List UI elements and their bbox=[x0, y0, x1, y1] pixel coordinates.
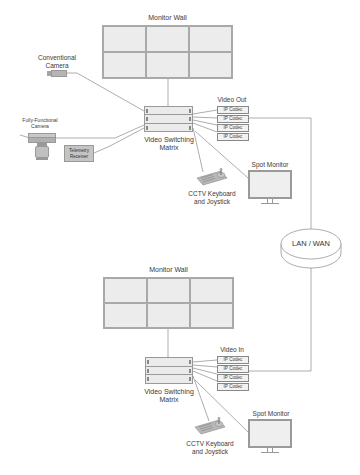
monitor-screen bbox=[190, 53, 231, 77]
monitor-screen bbox=[190, 27, 231, 51]
ip-codec: IP Codec bbox=[217, 365, 249, 373]
ip-codec: IP Codec bbox=[217, 356, 249, 364]
top-spot-monitor bbox=[248, 170, 292, 205]
conventional-camera-icon bbox=[47, 70, 67, 77]
top-keyboard-label: CCTV Keyboard and Joystick bbox=[186, 190, 238, 206]
telemetry-receiver: Telemetry Receiver bbox=[64, 145, 94, 162]
top-codec-stack: IP Codec IP Codec IP Codec IP Codec bbox=[217, 106, 249, 141]
matrix-rack-unit bbox=[146, 358, 192, 367]
matrix-rack-unit bbox=[146, 367, 192, 376]
matrix-rack-unit bbox=[145, 124, 192, 131]
monitor-screen bbox=[147, 27, 188, 51]
top-video-switching-matrix bbox=[144, 106, 193, 132]
ip-codec: IP Codec bbox=[217, 374, 249, 382]
monitor-screen bbox=[248, 419, 292, 448]
matrix-rack-unit bbox=[145, 115, 192, 123]
ip-codec: IP Codec bbox=[217, 115, 249, 123]
bottom-codec-stack: IP Codec IP Codec IP Codec IP Codec bbox=[217, 356, 249, 391]
cctv-keyboard-icon bbox=[193, 417, 229, 437]
bottom-spot-monitor-label: Spot Monitor bbox=[245, 410, 297, 418]
bottom-keyboard-label: CCTV Keyboard and Joystick bbox=[184, 440, 236, 456]
matrix-rack-unit bbox=[145, 107, 192, 115]
bottom-video-switching-matrix bbox=[145, 357, 193, 384]
bottom-monitor-wall-label: Monitor Wall bbox=[103, 266, 234, 274]
monitor-screen bbox=[105, 279, 146, 302]
ip-codec: IP Codec bbox=[217, 124, 249, 132]
video-in-label: Video In bbox=[215, 346, 249, 354]
cctv-keyboard-icon bbox=[195, 168, 231, 188]
ptz-camera-icon bbox=[28, 133, 56, 163]
lan-wan-cloud: LAN / WAN bbox=[280, 228, 342, 270]
ip-codec: IP Codec bbox=[217, 383, 249, 391]
bottom-matrix-label: Video Switching Matrix bbox=[140, 388, 198, 405]
top-spot-monitor-label: Spot Monitor bbox=[244, 161, 296, 169]
bottom-spot-monitor bbox=[248, 419, 292, 454]
monitor-screen bbox=[104, 53, 145, 77]
ptz-camera-label: Fully-Functional Camera bbox=[17, 117, 63, 129]
monitor-screen bbox=[191, 304, 232, 327]
monitor-screen bbox=[147, 53, 188, 77]
monitor-screen bbox=[248, 170, 292, 199]
video-out-label: Video Out bbox=[214, 96, 250, 104]
bottom-monitor-wall bbox=[103, 277, 234, 329]
matrix-rack-unit bbox=[146, 375, 192, 383]
top-monitor-wall-label: Monitor Wall bbox=[102, 14, 233, 22]
top-monitor-wall bbox=[102, 25, 233, 79]
monitor-screen bbox=[104, 27, 145, 51]
monitor-screen bbox=[148, 279, 189, 302]
monitor-screen bbox=[105, 304, 146, 327]
conventional-camera-label: Conventional Camera bbox=[34, 54, 80, 70]
ip-codec: IP Codec bbox=[217, 133, 249, 141]
lan-wan-label: LAN / WAN bbox=[280, 239, 342, 248]
top-matrix-label: Video Switching Matrix bbox=[140, 136, 198, 153]
monitor-screen bbox=[148, 304, 189, 327]
monitor-screen bbox=[191, 279, 232, 302]
ip-codec: IP Codec bbox=[217, 106, 249, 114]
